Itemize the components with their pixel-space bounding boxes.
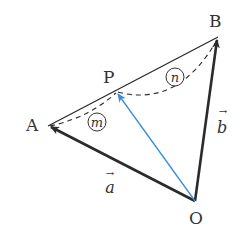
label-b: B xyxy=(209,11,222,31)
label-p: P xyxy=(103,67,114,87)
label-a: A xyxy=(25,115,39,135)
segment-ab xyxy=(48,37,218,126)
vector-b-arrow: → xyxy=(219,106,228,117)
vector-diagram: B A P O m n → a → b xyxy=(0,0,242,239)
vector-a xyxy=(51,127,195,201)
ratio-arc-n xyxy=(118,40,217,95)
diagram-svg: B A P O m n → a → b xyxy=(0,0,242,239)
ratio-label-n: n xyxy=(171,70,179,85)
label-o: O xyxy=(189,208,203,228)
vector-a-label: a xyxy=(105,178,115,197)
ratio-label-m: m xyxy=(91,115,103,130)
vector-b xyxy=(195,40,217,201)
vector-op xyxy=(118,94,195,201)
vector-b-label: b xyxy=(217,118,227,137)
